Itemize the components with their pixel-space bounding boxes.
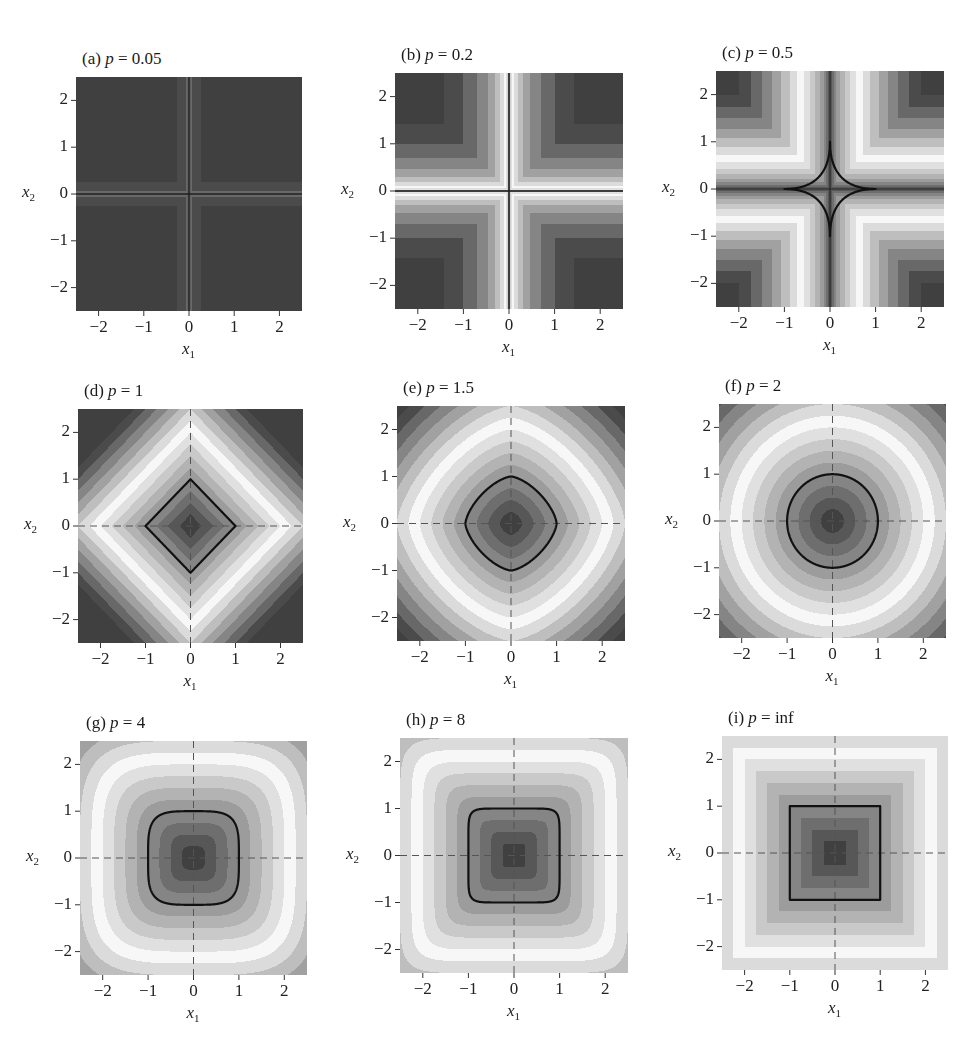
y-axis-label: x2 [668,841,681,862]
y-tick-label: 2 [684,748,714,768]
x-tick-label: −1 [775,976,805,996]
x-tick-label: 1 [865,976,895,996]
y-tick-label: 1 [684,795,714,815]
x-tick-label: 2 [910,976,940,996]
y-tick-label: 0 [684,842,714,862]
x-axis-label: x1 [828,998,841,1019]
plot-overlay [0,0,972,1040]
y-tick-label: −1 [684,889,714,909]
x-tick-label: −2 [730,976,760,996]
y-tick-label: −2 [684,936,714,956]
x-tick-label: 0 [820,976,850,996]
